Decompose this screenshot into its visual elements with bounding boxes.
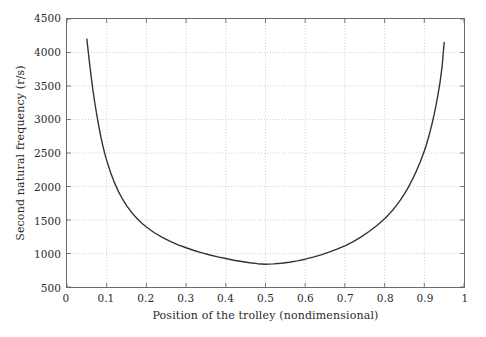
- y-tick-label: 3500: [34, 80, 61, 92]
- y-tick-label: 1500: [34, 215, 61, 227]
- y-tick-label: 1000: [34, 248, 61, 260]
- y-axis-tick-labels: 50010001500200025003000350040004500: [0, 18, 61, 288]
- x-tick-label: 1: [462, 292, 469, 304]
- x-tick-label: 0: [63, 292, 70, 304]
- y-tick-label: 4000: [34, 46, 61, 58]
- x-tick-label: 0.7: [337, 292, 354, 304]
- x-tick-label: 0.8: [377, 292, 394, 304]
- y-tick-label: 2500: [34, 147, 61, 159]
- y-tick-label: 4500: [34, 12, 61, 24]
- y-tick-label: 500: [41, 282, 61, 294]
- data-curve: [67, 19, 464, 287]
- y-axis-title: Second natural frequency (r/s): [14, 18, 28, 288]
- x-axis-tick-labels: 00.10.20.30.40.50.60.70.80.91: [66, 292, 465, 308]
- x-axis-title: Position of the trolley (nondimensional): [66, 309, 465, 322]
- x-tick-label: 0.9: [417, 292, 434, 304]
- figure-canvas: 50010001500200025003000350040004500 00.1…: [0, 0, 486, 337]
- x-tick-label: 0.4: [217, 292, 234, 304]
- x-tick-label: 0.1: [97, 292, 114, 304]
- x-tick-label: 0.3: [177, 292, 194, 304]
- x-tick-label: 0.2: [137, 292, 154, 304]
- plot-area: [66, 18, 465, 288]
- y-tick-label: 3000: [34, 113, 61, 125]
- x-tick-label: 0.5: [257, 292, 274, 304]
- y-tick-label: 2000: [34, 181, 61, 193]
- x-tick-label: 0.6: [297, 292, 314, 304]
